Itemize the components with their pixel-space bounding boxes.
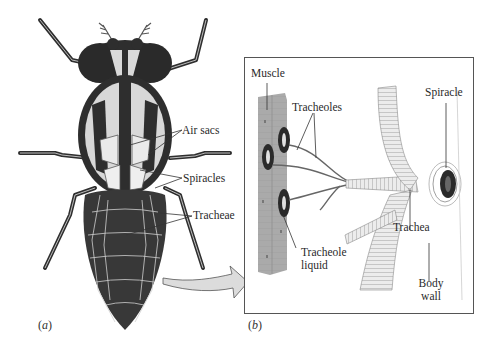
insect-abdomen — [83, 190, 166, 330]
figure-insect-tracheal-system: Air sacs Spiracles Tracheae (a) Muscle T… — [0, 0, 484, 347]
label-spiracle: Spiracle — [425, 86, 463, 99]
panel-b-label: (b) — [248, 318, 262, 333]
label-air-sacs: Air sacs — [182, 124, 219, 137]
label-tracheole-liquid: Tracheole liquid — [301, 246, 347, 272]
label-tracheae: Tracheae — [193, 209, 235, 222]
label-trachea: Trachea — [393, 221, 430, 234]
insect-thorax — [78, 75, 172, 195]
label-spiracles: Spiracles — [183, 172, 225, 185]
panel-a-label: (a) — [38, 318, 52, 333]
connector-arrow — [163, 266, 248, 298]
muscle-tissue — [258, 93, 287, 275]
label-muscle: Muscle — [251, 67, 285, 80]
label-body-wall: Body wall — [416, 277, 446, 303]
insect-illustration — [0, 0, 484, 347]
label-tracheoles: Tracheoles — [292, 101, 342, 114]
